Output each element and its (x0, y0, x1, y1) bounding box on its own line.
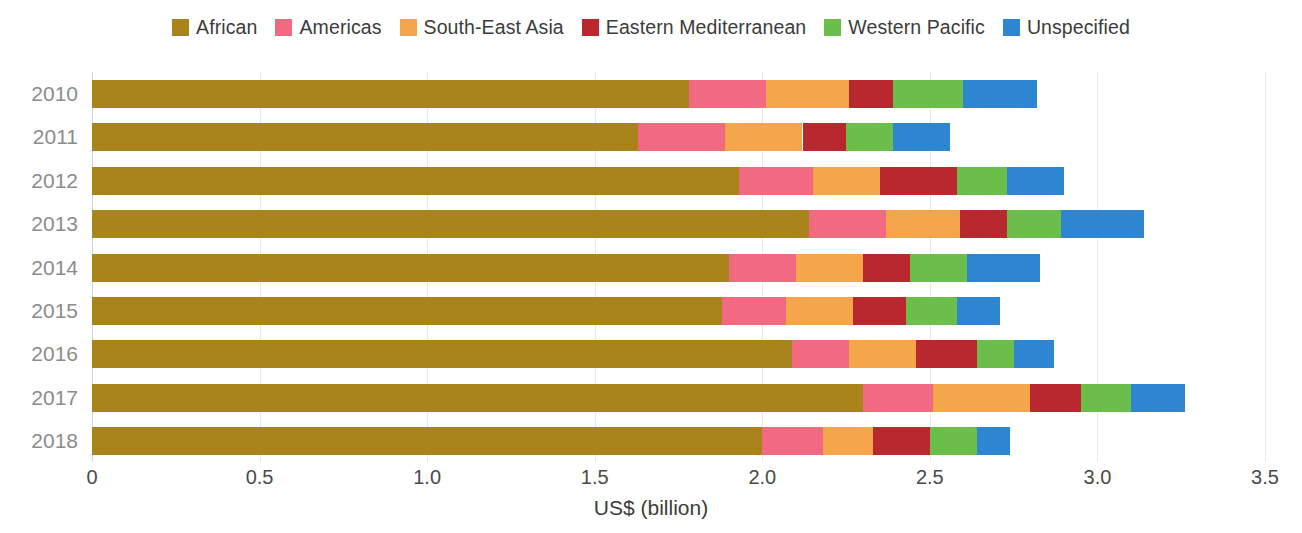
x-axis-tick-label: 2.5 (916, 466, 944, 489)
bar-row: 2015 (0, 293, 1302, 329)
bar-segment[interactable] (960, 210, 1007, 238)
y-axis-tick-label: 2014 (31, 250, 78, 286)
bar-segment[interactable] (873, 427, 930, 455)
stacked-bar[interactable] (92, 427, 1265, 455)
bar-segment[interactable] (893, 80, 963, 108)
y-axis-tick-label: 2015 (31, 293, 78, 329)
bar-row: 2010 (0, 76, 1302, 112)
bar-segment[interactable] (739, 167, 813, 195)
bar-segment[interactable] (823, 427, 873, 455)
x-axis-tick-label: 2.0 (748, 466, 776, 489)
bar-row: 2012 (0, 163, 1302, 199)
bar-segment[interactable] (796, 254, 863, 282)
bar-segment[interactable] (92, 123, 638, 151)
bar-segment[interactable] (1007, 210, 1061, 238)
bar-segment[interactable] (849, 80, 893, 108)
bar-segment[interactable] (880, 167, 957, 195)
bar-row: 2017 (0, 380, 1302, 416)
bar-segment[interactable] (1131, 384, 1185, 412)
bar-row: 2013 (0, 206, 1302, 242)
bar-segment[interactable] (638, 123, 725, 151)
bar-segment[interactable] (762, 427, 822, 455)
bar-segment[interactable] (92, 210, 809, 238)
stacked-bar[interactable] (92, 297, 1265, 325)
x-axis-tick-label: 0 (86, 466, 97, 489)
stacked-bar[interactable] (92, 254, 1265, 282)
bar-segment[interactable] (863, 254, 910, 282)
bar-segment[interactable] (967, 254, 1041, 282)
bar-segment[interactable] (1061, 210, 1145, 238)
x-axis-tick-label: 1.5 (581, 466, 609, 489)
bar-row: 2018 (0, 423, 1302, 459)
bar-segment[interactable] (977, 427, 1011, 455)
bar-segment[interactable] (893, 123, 950, 151)
bar-segment[interactable] (689, 80, 766, 108)
chart-root: AfricanAmericasSouth-East AsiaEastern Me… (0, 0, 1302, 533)
stacked-bar[interactable] (92, 123, 1265, 151)
bar-segment[interactable] (92, 167, 739, 195)
bar-row: 2016 (0, 336, 1302, 372)
bar-segment[interactable] (957, 297, 1001, 325)
bar-segment[interactable] (849, 340, 916, 368)
bar-segment[interactable] (977, 340, 1014, 368)
x-axis-tick-label: 3.5 (1251, 466, 1279, 489)
y-axis-tick-label: 2011 (33, 119, 78, 155)
bar-segment[interactable] (886, 210, 960, 238)
bar-segment[interactable] (92, 254, 729, 282)
bar-segment[interactable] (933, 384, 1030, 412)
bar-segment[interactable] (766, 80, 850, 108)
y-axis-tick-label: 2010 (31, 76, 78, 112)
stacked-bar[interactable] (92, 80, 1265, 108)
bar-segment[interactable] (906, 297, 956, 325)
bar-segment[interactable] (813, 167, 880, 195)
stacked-bar[interactable] (92, 384, 1265, 412)
bar-segment[interactable] (92, 427, 762, 455)
x-axis-tick-label: 1.0 (413, 466, 441, 489)
bar-segment[interactable] (92, 340, 792, 368)
bar-segment[interactable] (722, 297, 786, 325)
bar-segment[interactable] (803, 123, 847, 151)
bar-segment[interactable] (1007, 167, 1064, 195)
bar-segment[interactable] (916, 340, 976, 368)
y-axis-tick-label: 2013 (31, 206, 78, 242)
bar-segment[interactable] (957, 167, 1007, 195)
y-axis-tick-label: 2016 (31, 336, 78, 372)
bar-segment[interactable] (809, 210, 886, 238)
bar-segment[interactable] (1030, 384, 1080, 412)
stacked-bar[interactable] (92, 340, 1265, 368)
bar-segment[interactable] (1081, 384, 1131, 412)
bar-segment[interactable] (792, 340, 849, 368)
bar-row: 2014 (0, 250, 1302, 286)
bar-segment[interactable] (729, 254, 796, 282)
x-axis-title-text: US$ (billion) (594, 496, 708, 520)
bar-row: 2011 (0, 119, 1302, 155)
x-axis-tick-label: 3.0 (1084, 466, 1112, 489)
x-axis-title: US$ (billion) (0, 496, 1302, 520)
x-axis-tick-labels: 00.51.01.52.02.53.03.5 (0, 466, 1302, 496)
bar-segment[interactable] (786, 297, 853, 325)
stacked-bar[interactable] (92, 167, 1265, 195)
x-axis-tick-label: 0.5 (246, 466, 274, 489)
bar-segment[interactable] (910, 254, 967, 282)
bar-segment[interactable] (92, 80, 689, 108)
bar-segment[interactable] (846, 123, 893, 151)
bar-segment[interactable] (863, 384, 933, 412)
bar-segment[interactable] (1014, 340, 1054, 368)
chart-plot-area: 201020112012201320142015201620172018 (0, 0, 1302, 533)
y-axis-tick-label: 2018 (31, 423, 78, 459)
bar-segment[interactable] (92, 384, 863, 412)
bar-segment[interactable] (853, 297, 907, 325)
bar-segment[interactable] (725, 123, 802, 151)
y-axis-tick-label: 2017 (31, 380, 78, 416)
bar-segment[interactable] (930, 427, 977, 455)
bar-segment[interactable] (92, 297, 722, 325)
stacked-bar[interactable] (92, 210, 1265, 238)
y-axis-tick-label: 2012 (31, 163, 78, 199)
bar-segment[interactable] (963, 80, 1037, 108)
